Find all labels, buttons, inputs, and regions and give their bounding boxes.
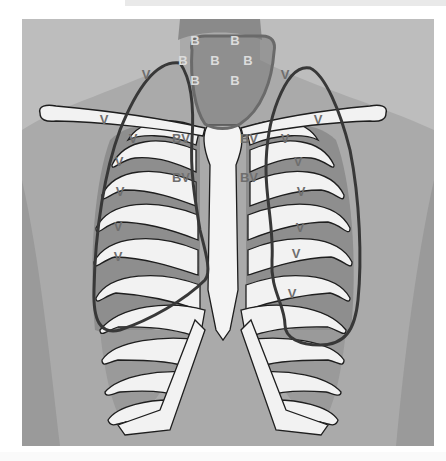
label-bv: BV xyxy=(172,131,190,146)
label-b: B xyxy=(178,53,187,68)
label-v: V xyxy=(296,220,305,235)
top-band xyxy=(125,0,446,6)
label-v: V xyxy=(114,249,123,264)
label-v: V xyxy=(281,67,290,82)
label-b: B xyxy=(230,33,239,48)
label-v: V xyxy=(314,112,323,127)
chest-diagram-svg: BBBBBBBBVBVBVBVVVVVVVVVVVVVVVV xyxy=(22,19,434,446)
label-b: B xyxy=(190,73,199,88)
label-v: V xyxy=(288,286,297,301)
label-v: V xyxy=(281,131,290,146)
label-b: B xyxy=(210,53,219,68)
label-v: V xyxy=(114,219,123,234)
label-v: V xyxy=(297,184,306,199)
label-bv: BV xyxy=(172,170,190,185)
label-v: V xyxy=(292,246,301,261)
label-bv: BV xyxy=(240,170,258,185)
label-b: B xyxy=(190,33,199,48)
label-v: V xyxy=(116,184,125,199)
label-v: V xyxy=(115,154,124,169)
label-bv: BV xyxy=(240,131,258,146)
label-v: V xyxy=(294,154,303,169)
label-v: V xyxy=(100,112,109,127)
label-v: V xyxy=(129,131,138,146)
chest-illustration: BBBBBBBBVBVBVBVVVVVVVVVVVVVVVV xyxy=(22,19,434,446)
label-b: B xyxy=(230,73,239,88)
label-b: B xyxy=(243,53,252,68)
label-v: V xyxy=(142,67,151,82)
bottom-band xyxy=(0,452,446,461)
